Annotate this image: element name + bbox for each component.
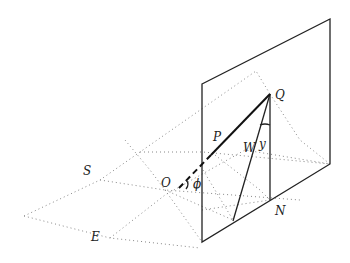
angle-y-arc <box>260 124 270 125</box>
label-W: W <box>243 141 257 155</box>
angle-phi-arc <box>186 180 188 189</box>
label-O: O <box>161 176 171 190</box>
label-E: E <box>90 230 100 244</box>
label-Q: Q <box>275 88 285 102</box>
diagram-canvas: Q P W y O ϕ S E N <box>0 0 350 263</box>
label-phi: ϕ <box>193 177 201 191</box>
label-N: N <box>274 204 286 218</box>
label-P: P <box>212 130 222 144</box>
label-y: y <box>258 137 266 151</box>
label-S: S <box>83 164 91 178</box>
vertical-plane <box>202 19 330 242</box>
